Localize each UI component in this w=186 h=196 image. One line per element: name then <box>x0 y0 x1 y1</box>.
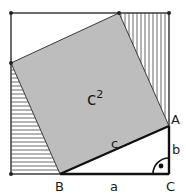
label-side-b: b <box>172 142 180 157</box>
corner-dot-top-right <box>167 11 171 15</box>
label-side-a: a <box>110 179 118 194</box>
corner-dot-left <box>9 61 13 65</box>
corner-dot-top-left <box>9 11 13 15</box>
corner-dot-bottom-left <box>9 172 13 176</box>
corner-dot-top <box>117 11 121 15</box>
right-angle-dot <box>159 164 164 169</box>
label-side-c: c <box>111 136 118 151</box>
label-vertex-a: A <box>171 112 180 127</box>
diagram-canvas: c2 c a b A B C <box>0 0 186 196</box>
pythagoras-diagram: c2 c a b A B C <box>0 0 186 196</box>
label-vertex-b: B <box>55 179 64 194</box>
label-vertex-c: C <box>166 179 175 194</box>
